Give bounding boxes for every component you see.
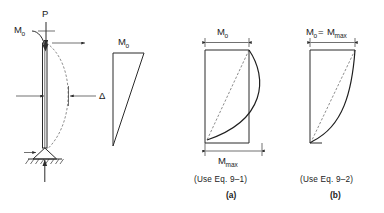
magnified-moment-diagram-b: M o = M max (Use Eq. 9–2) (b) xyxy=(300,26,355,200)
svg-text:o: o xyxy=(314,32,318,39)
applied-moment-label: M o xyxy=(14,24,26,37)
axial-load-arrow-icon xyxy=(38,22,55,46)
svg-text:max: max xyxy=(226,161,239,168)
magnified-moment-curve-a xyxy=(207,50,260,140)
deflection-label: Δ xyxy=(99,90,106,101)
moment-triangle-shape xyxy=(113,53,144,146)
primary-moment-dashed-line-a xyxy=(207,50,249,140)
figure-root: P M o xyxy=(0,0,384,213)
primary-moment-label: M o xyxy=(118,36,130,49)
equation-note-a: (Use Eq. 9–1) xyxy=(194,175,247,184)
top-moment-label-b: M o = M max xyxy=(306,26,348,39)
svg-text:=: = xyxy=(318,26,324,37)
loaded-column-diagram: P M o xyxy=(14,8,106,182)
primary-moment-diagram: M o xyxy=(113,36,144,146)
equation-note-b: (Use Eq. 9–2) xyxy=(300,175,353,184)
svg-text:max: max xyxy=(335,32,348,39)
svg-text:o: o xyxy=(126,42,130,49)
primary-moment-dashed-line-b xyxy=(312,50,355,140)
panel-letter-b: (b) xyxy=(330,190,341,200)
column-member xyxy=(43,43,48,148)
bottom-moment-label-a: M max xyxy=(218,155,239,168)
deflected-shape-curve xyxy=(47,43,69,148)
top-moment-dimension-a xyxy=(205,38,249,47)
pin-support-icon xyxy=(24,148,64,164)
magnified-moment-diagram-a: M o M max xyxy=(194,26,262,200)
svg-text:o: o xyxy=(225,32,229,39)
top-moment-dimension-b xyxy=(310,38,355,47)
top-moment-label-a: M o xyxy=(217,26,229,39)
engineering-figure: P M o xyxy=(0,0,384,213)
deflection-dimension xyxy=(16,86,96,106)
magnified-moment-curve-b xyxy=(313,50,355,141)
svg-text:o: o xyxy=(22,30,26,37)
axial-load-label: P xyxy=(42,8,48,19)
bottom-moment-dimension-a xyxy=(205,143,262,156)
panel-letter-a: (a) xyxy=(226,190,236,200)
